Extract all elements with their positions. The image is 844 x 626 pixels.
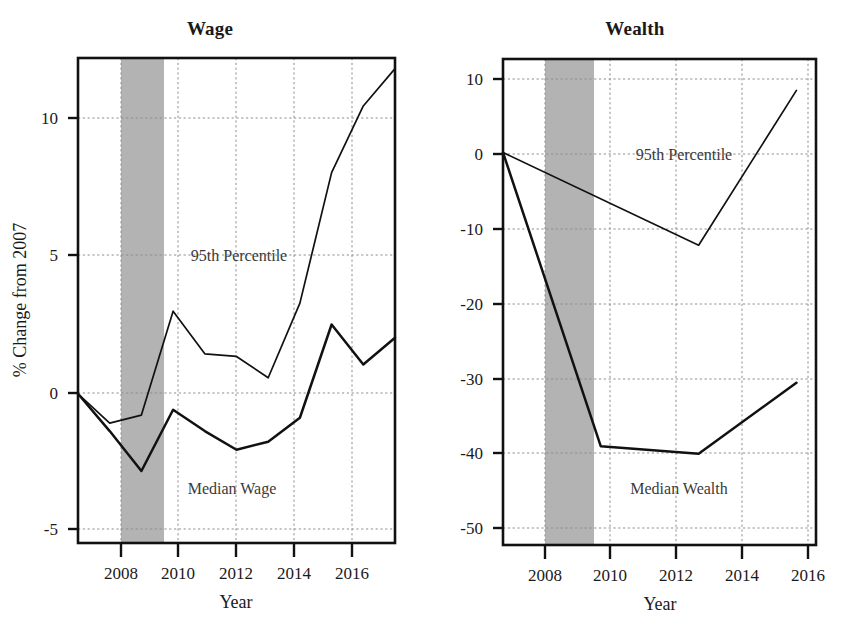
ytick-label-neg10: -10 [460, 220, 483, 239]
annotation-95th-percentile: 95th Percentile [636, 146, 732, 163]
ytick-label-neg40: -40 [460, 444, 483, 463]
ytick-label-10: 10 [466, 70, 483, 89]
xtick-label-2014: 2014 [277, 564, 312, 583]
ytick-label-neg50: -50 [460, 519, 483, 538]
xtick-label-2012: 2012 [219, 564, 253, 583]
xtick-label-2012: 2012 [659, 566, 693, 585]
xtick-label-2016: 2016 [335, 564, 369, 583]
ytick-label-neg20: -20 [460, 295, 483, 314]
panel-wage: Wage [0, 0, 422, 626]
ytick-label-neg30: -30 [460, 370, 483, 389]
annotation-median: Median Wealth [630, 480, 728, 497]
xtick-label-2008: 2008 [104, 564, 138, 583]
annotation-median: Median Wage [188, 480, 277, 498]
panel-wealth-plot: 10 0 -10 -20 -30 -40 -50 2008 2010 2012 … [422, 0, 844, 626]
xtick-label-2016: 2016 [791, 566, 825, 585]
xtick-label-2008: 2008 [528, 566, 562, 585]
ytick-label-10: 10 [41, 109, 58, 128]
ytick-label-5: 5 [50, 246, 59, 265]
ytick-label-0: 0 [475, 145, 484, 164]
ytick-label-0: 0 [50, 384, 59, 403]
figure-two-panel-chart: Wage [0, 0, 844, 626]
xtick-label-2014: 2014 [725, 566, 760, 585]
ytick-label-neg5: -5 [44, 520, 58, 539]
panel-wealth: Wealth [422, 0, 844, 626]
yaxis-title: % Change from 2007 [10, 223, 30, 377]
xaxis-title: Year [643, 594, 676, 614]
xaxis-title: Year [219, 592, 252, 612]
annotation-95th-percentile: 95th Percentile [191, 247, 287, 264]
panel-wage-plot: 10 5 0 -5 2008 2010 2012 2014 2016 Year … [0, 0, 422, 626]
xtick-label-2010: 2010 [593, 566, 627, 585]
xtick-label-2010: 2010 [161, 564, 195, 583]
